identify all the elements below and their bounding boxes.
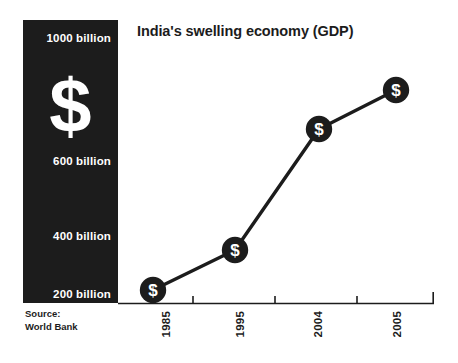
data-point-marker-1985: $ bbox=[140, 277, 166, 303]
source-label: Source: bbox=[25, 307, 78, 320]
svg-text:$: $ bbox=[391, 81, 401, 100]
source-value: World Bank bbox=[25, 320, 78, 333]
x-axis-label-1985: 1985 bbox=[160, 311, 172, 337]
svg-text:$: $ bbox=[148, 281, 158, 300]
x-axis-label-2004: 2004 bbox=[312, 311, 324, 337]
source-note: Source: World Bank bbox=[25, 307, 78, 334]
x-axis-label-1995: 1995 bbox=[234, 311, 246, 337]
data-point-marker-2004: $ bbox=[306, 116, 332, 142]
data-point-marker-2005: $ bbox=[383, 77, 409, 103]
chart-figure: 1000 billion $ 600 billion 400 billion 2… bbox=[0, 0, 458, 363]
data-line bbox=[153, 90, 396, 290]
data-point-marker-1995: $ bbox=[222, 237, 248, 263]
x-axis-label-2005: 2005 bbox=[391, 311, 403, 337]
svg-text:$: $ bbox=[230, 241, 240, 260]
svg-text:$: $ bbox=[314, 120, 324, 139]
